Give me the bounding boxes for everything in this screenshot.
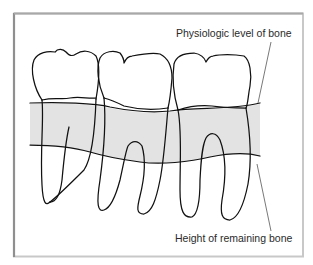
physiologic-level-label: Physiologic level of bone: [176, 28, 292, 39]
diagram-svg: [0, 0, 313, 265]
dental-bone-diagram: Physiologic level of bone Height of rema…: [0, 0, 313, 265]
remaining-height-label: Height of remaining bone: [175, 233, 292, 244]
